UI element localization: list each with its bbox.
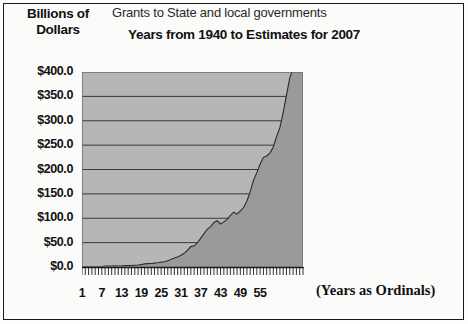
y-tick-label-200: $200.0 (5, 162, 73, 176)
y-tick-label-400: $400.0 (5, 64, 73, 78)
y-axis-title: Billions of Dollars (10, 6, 106, 38)
y-tick-label-300: $300.0 (5, 113, 73, 127)
x-axis-caption: (Years as Ordinals) (316, 282, 435, 299)
area-chart-svg (82, 72, 303, 267)
y-tick-label-150: $150.0 (5, 186, 73, 200)
x-axis-tick-strip (82, 267, 304, 276)
chart-title: Grants to State and local governments (112, 5, 326, 20)
y-tick-label-0: $0.0 (5, 259, 73, 273)
chart-figure: Billions of Dollars Grants to State and … (0, 0, 468, 324)
y-tick-label-350: $350.0 (5, 88, 73, 102)
chart-subtitle: Years from 1940 to Estimates for 2007 (128, 27, 360, 42)
y-tick-label-100: $100.0 (5, 210, 73, 224)
x-tick-label-55: 55 (248, 286, 272, 300)
y-tick-label-50: $50.0 (5, 235, 73, 249)
plot-area (82, 72, 303, 267)
y-tick-label-250: $250.0 (5, 137, 73, 151)
